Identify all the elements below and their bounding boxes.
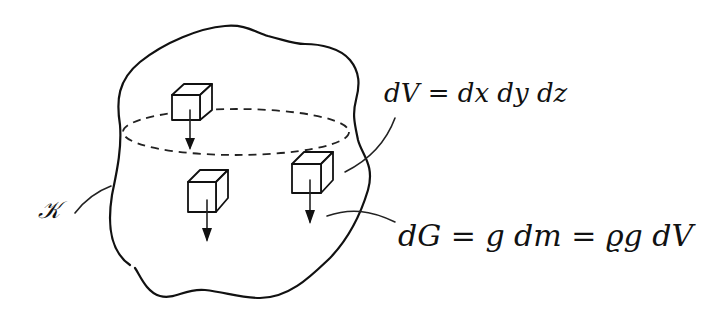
arrow-down-icon: [185, 138, 195, 150]
cube-icon: [172, 84, 212, 150]
arrow-down-icon: [202, 228, 212, 242]
arrow-down-icon: [305, 210, 315, 224]
cube-icon: [188, 170, 228, 242]
cross-section-ellipse: [123, 109, 349, 155]
leader-line-dg: [327, 211, 395, 222]
body-label: 𝒦: [38, 196, 60, 224]
leader-line-dv: [345, 118, 395, 172]
cube-icon: [292, 152, 333, 224]
leader-line-k: [75, 186, 111, 213]
weight-element-label: dG = g dm = ϱg dV: [398, 218, 693, 253]
volume-element-label: dV = dx dy dz: [384, 78, 567, 108]
diagram-canvas: [0, 0, 704, 319]
